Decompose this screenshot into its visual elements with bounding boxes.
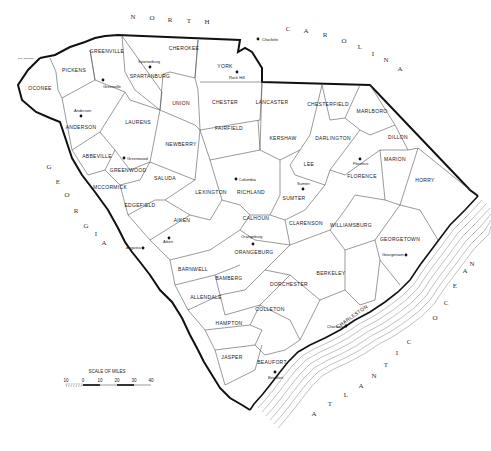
label-georgia-a: A — [101, 239, 106, 247]
county-bamberg: BAMBERG — [215, 275, 242, 281]
city-dot-orangeburg — [252, 243, 255, 246]
city-dot-beaufort — [274, 371, 277, 374]
county-spartanburg: SPARTANBURG — [130, 73, 171, 79]
city-rock-hill: Rock Hill — [229, 75, 245, 80]
label-atlantic-a2: A — [358, 382, 363, 390]
scale-tick-0: 0 — [82, 378, 85, 383]
label-carolina-l: L — [358, 43, 362, 51]
county-marion: MARION — [384, 156, 406, 162]
county-laurens: LAURENS — [125, 119, 151, 125]
county-abbeville: ABBEVILLE — [82, 153, 112, 159]
city-dot-sumter — [302, 188, 305, 191]
label-ocean-a: A — [462, 267, 467, 275]
city-spartanburg: Spartanburg — [138, 59, 160, 64]
label-north-t: T — [187, 17, 192, 25]
county-greenwood: GREENWOOD — [110, 167, 147, 173]
county-york: YORK — [217, 63, 233, 69]
scale-tick-30: 30 — [131, 378, 137, 383]
county-beaufort: BEAUFORT — [257, 359, 287, 365]
label-north-o: O — [149, 14, 154, 22]
county-saluda: SALUDA — [154, 175, 176, 181]
city-dot-florence — [359, 158, 362, 161]
city-aiken: Aiken — [163, 239, 173, 244]
county-dorchester: DORCHESTER — [270, 281, 308, 287]
scale-tick-40: 40 — [148, 378, 154, 383]
city-charlotte: Charlotte — [262, 37, 279, 42]
label-atlantic-a: A — [311, 410, 316, 418]
county-hampton: HAMPTON — [215, 320, 242, 326]
city-columbia: Columbia — [239, 177, 257, 182]
label-nc-boundary: N.C. boundary — [18, 57, 35, 60]
city-dot-charlotte — [257, 38, 260, 41]
label-carolina-r: R — [323, 31, 328, 39]
scale-tick-10a: 10 — [63, 378, 69, 383]
county-dillon: DILLON — [388, 134, 408, 140]
county-williamsburg: WILLIAMSBURG — [330, 222, 372, 228]
label-georgia-o: O — [64, 191, 69, 199]
city-greenwood: Greenwood — [127, 156, 148, 161]
city-anderson: Anderson — [74, 108, 91, 113]
county-barnwell: BARNWELL — [178, 266, 208, 272]
county-lancaster: LANCASTER — [256, 99, 289, 105]
label-ocean-n: N — [469, 260, 474, 268]
county-union: UNION — [172, 100, 190, 106]
label-north-h: H — [204, 18, 209, 26]
county-jasper: JASPER — [221, 354, 242, 360]
county-edgefield: EDGEFIELD — [124, 202, 155, 208]
city-dot-spartanburg — [149, 66, 152, 69]
scale-title: SCALE OF MILES — [88, 369, 125, 374]
city-sumter: Sumter — [297, 181, 311, 186]
city-greenville: Greenville — [103, 84, 122, 89]
label-north-r: R — [168, 16, 173, 24]
county-chesterfield: CHESTERFIELD — [307, 101, 349, 107]
label-atlantic-t: T — [328, 400, 333, 408]
scale-bar: SCALE OF MILES 10 0 10 20 30 40 — [63, 369, 154, 386]
county-chester: CHESTER — [212, 99, 238, 105]
city-georgetown: Georgetown — [382, 252, 404, 257]
label-carolina-n: N — [383, 56, 388, 64]
county-mccormick: MCCORMICK — [93, 184, 127, 190]
label-carolina-a2: A — [397, 65, 402, 73]
county-lexington: LEXINGTON — [195, 189, 227, 195]
county-cherokee: CHEROKEE — [169, 45, 200, 51]
city-dot-greenwood — [123, 157, 126, 160]
county-newberry: NEWBERRY — [165, 141, 197, 147]
county-darlington: DARLINGTON — [315, 135, 351, 141]
county-fairfield: FAIRFIELD — [215, 125, 243, 131]
scale-tick-10: 10 — [97, 378, 103, 383]
county-clarendon: CLARENSON — [289, 220, 323, 226]
city-dot-columbia — [235, 178, 238, 181]
county-orangeburg: ORANGEBURG — [234, 249, 273, 255]
label-ocean-e: E — [453, 282, 457, 290]
label-georgia-g2: G — [83, 222, 88, 230]
county-labels: OCONEE PICKENS GREENVILLE SPARTANBURG CH… — [28, 45, 435, 365]
label-carolina-i: I — [372, 50, 375, 58]
county-colleton: COLLETON — [255, 306, 284, 312]
city-dot-augusta — [142, 247, 145, 250]
city-dot-georgetown — [405, 254, 408, 257]
label-georgia-i: I — [95, 230, 98, 238]
label-atlantic-l: L — [344, 391, 348, 399]
city-florence: Florence — [353, 161, 369, 166]
county-calhoun: CALHOUN — [243, 215, 270, 221]
county-richland: RICHLAND — [237, 189, 265, 195]
label-carolina-c: C — [286, 25, 291, 33]
county-berkeley: BERKELEY — [317, 270, 346, 276]
city-beaufort: Beaufort — [268, 375, 284, 380]
county-greenville: GREENVILLE — [90, 48, 125, 54]
city-augusta: Augusta — [126, 245, 141, 250]
label-ocean-o: O — [432, 314, 437, 322]
label-north-n: N — [130, 13, 135, 21]
county-sumter: SUMTER — [283, 195, 306, 201]
county-georgetown: GEORGETOWN — [380, 236, 420, 242]
city-dot-anderson — [80, 115, 83, 118]
label-atlantic-c: C — [407, 338, 412, 346]
label-georgia-r: R — [74, 207, 79, 215]
city-orangeburg: Orangeburg — [241, 234, 262, 239]
city-dot-rock-hill — [236, 71, 239, 74]
county-horry: HORRY — [415, 177, 435, 183]
label-georgia-g: G — [46, 163, 51, 171]
county-pickens: PICKENS — [62, 67, 86, 73]
label-atlantic-i: I — [396, 349, 399, 357]
label-atlantic-t2: T — [384, 361, 389, 369]
